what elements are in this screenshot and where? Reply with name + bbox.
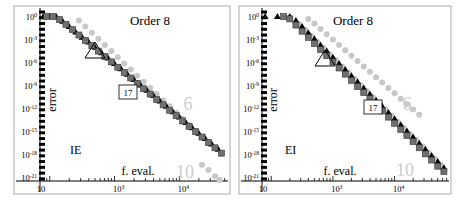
y-tick <box>261 172 267 175</box>
y-tick <box>39 137 45 140</box>
data-point <box>392 120 398 126</box>
data-point <box>336 65 342 71</box>
data-point <box>311 21 317 27</box>
data-point <box>115 64 121 70</box>
y-tick <box>39 57 45 60</box>
data-point <box>212 145 218 151</box>
chart-svg: 10010-310-610-910-1210-1510-1810-2110103… <box>235 0 470 204</box>
data-point <box>287 16 293 22</box>
data-point <box>410 106 416 112</box>
data-point <box>361 63 367 69</box>
y-tick <box>39 62 45 65</box>
x-tick-label: 10 <box>259 184 268 194</box>
y-tick <box>39 177 45 180</box>
data-point <box>398 96 404 102</box>
data-point <box>141 86 147 92</box>
data-point <box>429 157 435 163</box>
chart-panel-ei: 10010-310-610-910-1210-1510-1810-2110103… <box>235 0 470 204</box>
data-point <box>330 37 336 43</box>
data-point <box>50 14 56 20</box>
method-label: EI <box>285 143 296 157</box>
data-point <box>76 17 82 23</box>
order-6-label: 6 <box>184 94 193 114</box>
data-point <box>385 114 391 120</box>
data-point <box>336 42 342 48</box>
y-tick <box>39 68 45 71</box>
y-tick <box>261 166 267 169</box>
data-point <box>305 34 311 40</box>
data-point <box>348 77 354 83</box>
y-tick <box>261 85 267 88</box>
y-tick <box>39 114 45 117</box>
y-tick <box>261 57 267 60</box>
data-point <box>342 71 348 77</box>
data-point <box>342 47 348 53</box>
y-tick <box>261 137 267 140</box>
data-point <box>379 80 385 86</box>
data-point <box>361 90 367 96</box>
data-point <box>398 126 404 132</box>
data-point <box>173 113 179 119</box>
data-point <box>410 139 416 145</box>
y-tick <box>39 143 45 146</box>
y-tick <box>39 149 45 152</box>
data-point <box>115 54 121 60</box>
y-tick <box>261 131 267 134</box>
data-point <box>355 58 361 64</box>
data-point <box>63 21 69 27</box>
y-tick <box>261 28 267 31</box>
y-tick <box>261 68 267 71</box>
data-point <box>367 69 373 75</box>
method-label: IE <box>70 143 81 157</box>
y-tick <box>261 114 267 117</box>
y-tick <box>261 154 267 157</box>
boxed-label-17: 17 <box>369 103 379 113</box>
y-axis-label: error <box>45 88 59 111</box>
y-tick <box>261 45 267 48</box>
y-tick <box>261 74 267 77</box>
data-point <box>167 107 173 113</box>
data-point <box>373 74 379 80</box>
data-point <box>299 28 305 34</box>
order-10-label: 10 <box>396 160 414 180</box>
y-tick <box>39 45 45 48</box>
data-point <box>180 118 186 124</box>
data-point <box>324 31 330 37</box>
x-axis-label: f. eval. <box>122 164 155 178</box>
y-tick <box>261 62 267 65</box>
y-tick <box>261 22 267 25</box>
data-point <box>108 59 114 65</box>
data-point <box>121 60 127 66</box>
data-point <box>76 32 82 38</box>
y-tick <box>39 34 45 37</box>
data-point <box>199 162 205 168</box>
y-tick <box>39 39 45 42</box>
data-point <box>305 16 311 22</box>
data-point <box>404 133 410 139</box>
data-point <box>206 167 212 173</box>
data-point <box>218 150 224 156</box>
y-tick <box>261 143 267 146</box>
data-point <box>281 14 287 20</box>
chart-title: Order 8 <box>130 13 170 28</box>
x-axis-label: f. eval. <box>324 164 357 178</box>
y-tick <box>39 166 45 169</box>
data-point <box>416 145 422 151</box>
data-point <box>82 24 88 30</box>
data-point <box>43 14 49 20</box>
y-tick <box>261 34 267 37</box>
boxed-label-17: 17 <box>124 88 134 98</box>
y-tick <box>39 11 45 14</box>
data-point <box>121 70 127 76</box>
y-tick <box>39 80 45 83</box>
data-point <box>416 112 422 118</box>
data-point <box>102 42 108 48</box>
data-point <box>134 73 140 79</box>
data-point <box>193 129 199 135</box>
data-point <box>147 91 153 97</box>
y-tick <box>39 126 45 129</box>
y-tick <box>39 22 45 25</box>
y-tick <box>261 11 267 14</box>
data-point <box>318 26 324 32</box>
y-tick <box>39 160 45 163</box>
